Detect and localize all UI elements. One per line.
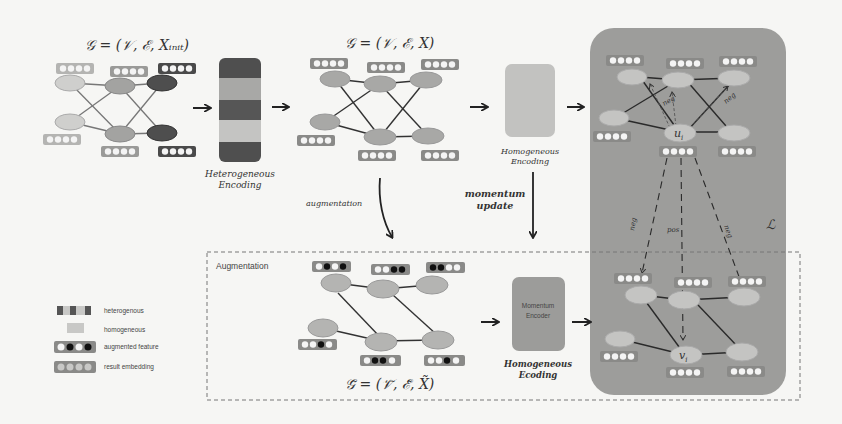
initial-graph-formula: 𝒢 = (𝒱, ℰ, Xᵢₙᵢₜ)	[85, 37, 189, 53]
hetero-encoding-label-2: Encoding	[217, 180, 261, 190]
encoded-graph: 𝒢 = (𝒱, ℰ, X)	[297, 35, 459, 161]
legend-item-heterogeneous: heterogenous	[57, 306, 145, 315]
momentum-caption-1: Homogeneous	[503, 359, 572, 369]
loss-symbol: ℒ	[766, 217, 776, 232]
homogeneous-swatch-icon	[67, 323, 84, 333]
initial-graph-nodes	[55, 75, 177, 142]
encoded-graph-nodes	[310, 71, 444, 145]
momentum-encoder-label-1: Momentum	[522, 302, 555, 309]
augmentation-label: augmentation	[306, 199, 362, 208]
augmented-feature-swatch-icon	[54, 341, 96, 353]
contrastive-loss-panel: neg neg ui neg pos neg ℒ	[590, 28, 786, 395]
legend-label-augmented: augmented feature	[104, 343, 159, 351]
hetero-encoding-label-1: Heterogeneous	[204, 169, 275, 179]
homogeneous-encoding-block: Homogeneous Encoding	[500, 64, 559, 166]
momentum-encoder-block: Momentum Encoder Homogeneous Ecoding	[503, 277, 572, 380]
augmented-graph-formula: 𝒢̃ = (𝒱̃, ℰ̃, X̃)	[345, 375, 434, 392]
initial-graph: 𝒢 = (𝒱, ℰ, Xᵢₙᵢₜ)	[43, 37, 196, 157]
momentum-encoder-label-2: Encoder	[526, 312, 551, 319]
homo-encoding-label-2: Encoding	[510, 157, 549, 166]
legend-item-augmented: augmented feature	[54, 341, 159, 353]
heterogeneous-encoding-block: Heterogeneous Encoding	[204, 58, 275, 190]
momentum-caption-2: Ecoding	[518, 370, 558, 380]
momentum-label-1: momentum	[465, 188, 526, 199]
legend-label-homogeneous: homogeneous	[104, 326, 146, 334]
legend-label-result: result embedding	[104, 363, 154, 371]
encoded-graph-formula: 𝒢 = (𝒱, ℰ, X)	[345, 35, 434, 51]
homo-encoding-label-1: Homogeneous	[500, 147, 559, 156]
legend-item-homogeneous: homogeneous	[67, 323, 146, 334]
augmentation-arrow	[380, 178, 392, 237]
pos-label: pos	[667, 226, 680, 234]
legend-item-result: result embedding	[54, 361, 154, 373]
result-embedding-swatch-icon	[54, 361, 96, 373]
legend-label-heterogeneous: heterogenous	[104, 307, 145, 315]
heterogeneous-swatch-icon	[57, 306, 91, 315]
momentum-label-2: update	[477, 200, 514, 211]
framework-diagram: 𝒢 = (𝒱, ℰ, Xᵢₙᵢₜ)	[0, 0, 842, 424]
augmentation-title: Augmentation	[216, 261, 269, 271]
legend: heterogenous homogeneous augmented featu…	[54, 306, 159, 373]
